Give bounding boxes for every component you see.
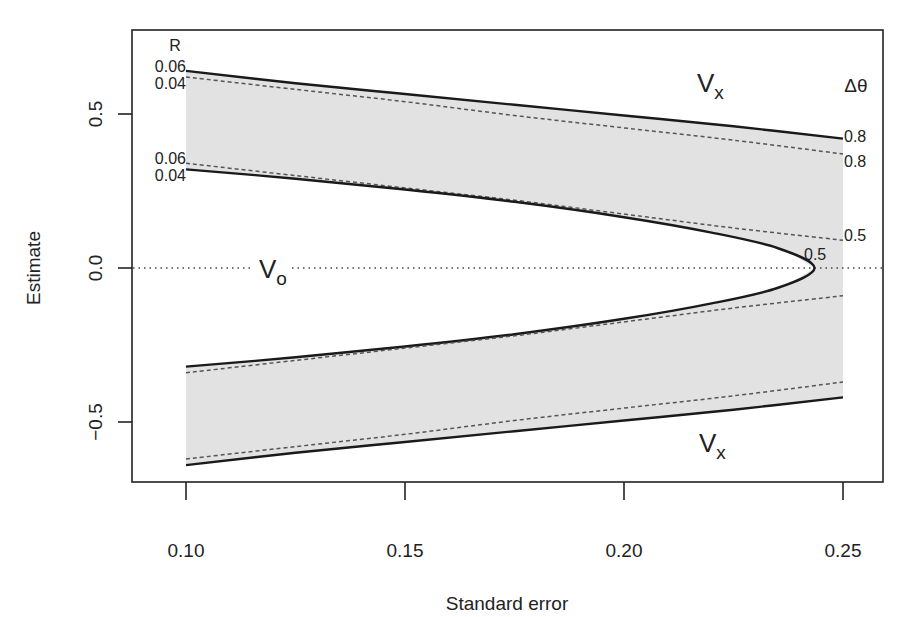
x-tick-label: 0.10 <box>168 540 205 561</box>
x-tick-label: 0.20 <box>606 540 643 561</box>
y-axis <box>118 114 132 422</box>
delta-theta-label: 0.5 <box>804 246 826 263</box>
y-tick-label: −0.5 <box>85 403 106 441</box>
y-tick-label: 0.0 <box>85 255 106 281</box>
r-label: 0.04 <box>155 167 186 184</box>
r-header-label: R <box>169 37 181 54</box>
y-axis-title: Estimate <box>23 231 44 305</box>
delta-theta-header-label: Δθ <box>844 75 867 96</box>
y-tick-label: 0.5 <box>85 101 106 127</box>
r-label: 0.06 <box>155 58 186 75</box>
region-label-vx-upper: Vx <box>697 68 724 103</box>
x-axis <box>186 482 843 500</box>
r-label: 0.04 <box>155 75 186 92</box>
x-tick-label: 0.15 <box>387 540 424 561</box>
delta-theta-label: 0.5 <box>844 227 866 244</box>
region-label-vx-lower: Vx <box>699 428 726 463</box>
region-label-vo: Vo <box>259 254 287 289</box>
x-tick-label: 0.25 <box>825 540 862 561</box>
delta-theta-label: 0.8 <box>844 128 866 145</box>
chart: 0.5 0.0 −0.5 Estimate 0.10 0.15 0.20 0.2… <box>0 0 909 617</box>
r-label: 0.06 <box>155 150 186 167</box>
x-axis-title: Standard error <box>446 593 569 614</box>
delta-theta-label: 0.8 <box>844 153 866 170</box>
